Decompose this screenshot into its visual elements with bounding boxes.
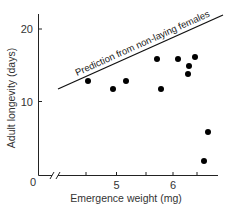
y-tick-label-20: 20 [21,23,33,35]
x-tick-label-5: 5 [113,179,119,191]
y-axis-label: Adult longevity (days) [5,48,17,148]
x-axis-label: Emergence weight (mg) [70,192,181,204]
data-point [201,158,207,164]
data-point [110,86,116,92]
x-ticks: 0 5 6 [30,172,197,191]
x-origin-label: 0 [30,176,36,188]
data-point [192,54,198,60]
x-axis [39,172,219,179]
y-tick-label-10: 10 [21,96,33,108]
data-point [186,63,192,69]
data-point [154,56,160,62]
data-point [123,78,129,84]
x-tick-label-6: 6 [170,179,176,191]
data-point [175,56,181,62]
data-point [85,78,91,84]
data-point [205,129,211,135]
data-points [85,54,211,164]
prediction-line [58,15,223,89]
data-point [185,71,191,77]
scatter-chart: 20 10 0 5 6 Emergence weight (mg) Adult … [0,0,231,207]
data-point [158,86,164,92]
